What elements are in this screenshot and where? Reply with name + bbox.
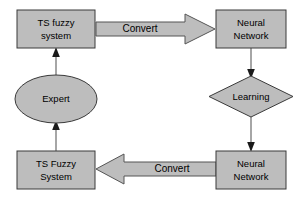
node-learning[interactable]: Learning [209, 76, 293, 117]
node-neural-network-bottom[interactable]: Neural Network [216, 151, 286, 189]
node-ts-fuzzy-system-top-line1: TS fuzzy [38, 17, 75, 28]
connector-ts-bottom-to-expert [52, 120, 60, 152]
node-ts-fuzzy-system-top[interactable]: TS fuzzy system [17, 10, 95, 48]
edge-convert-top-label: Convert [122, 23, 157, 34]
node-neural-network-top-line1: Neural [237, 17, 265, 28]
edge-convert-top: Convert [96, 14, 215, 44]
edge-convert-bottom-label: Convert [154, 163, 189, 174]
node-expert[interactable]: Expert [15, 75, 97, 123]
diagram-canvas: Convert Convert TS fuzzy system Neural N… [0, 0, 308, 198]
connector-learning-to-nn [247, 117, 255, 152]
node-neural-network-top[interactable]: Neural Network [216, 10, 286, 48]
connector-expert-to-ts-top [52, 47, 60, 75]
connector-nn-to-learning [247, 48, 255, 79]
node-ts-fuzzy-system-bottom[interactable]: TS Fuzzy System [17, 151, 95, 189]
node-neural-network-top-line2: Network [234, 30, 269, 41]
node-ts-fuzzy-system-top-line2: system [41, 30, 71, 41]
node-ts-fuzzy-system-bottom-line1: TS Fuzzy [36, 158, 76, 169]
node-ts-fuzzy-system-bottom-line2: System [40, 171, 72, 182]
node-learning-label: Learning [233, 91, 270, 102]
node-expert-label: Expert [42, 93, 70, 104]
node-neural-network-bottom-line2: Network [234, 171, 269, 182]
edge-convert-bottom: Convert [96, 154, 216, 184]
node-neural-network-bottom-line1: Neural [237, 158, 265, 169]
